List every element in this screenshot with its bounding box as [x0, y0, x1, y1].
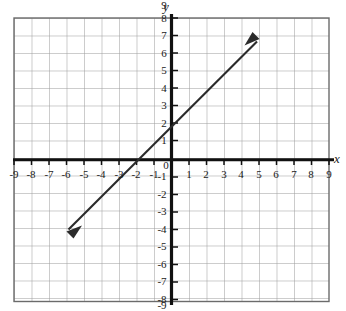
- y-tick-label-6: 6: [158, 48, 170, 59]
- x-tick-label-6: 6: [270, 169, 282, 180]
- x-tick-label-1: 1: [183, 169, 195, 180]
- y-tick-label--2: -2: [154, 189, 170, 200]
- y-tick-label--5: -5: [154, 241, 170, 252]
- y-tick-label--6: -6: [154, 259, 170, 270]
- x-tick-label-3: 3: [218, 169, 230, 180]
- x-tick-label-4: 4: [235, 169, 247, 180]
- x-tick-label-8: 8: [305, 169, 317, 180]
- y-tick-label-3: 3: [158, 100, 170, 111]
- x-tick-label--5: -5: [77, 169, 91, 180]
- x-tick-label-9: 9: [323, 169, 335, 180]
- x-tick-label--9: -9: [7, 169, 21, 180]
- x-tick-label--3: -3: [112, 169, 126, 180]
- y-tick-label-4: 4: [158, 83, 170, 94]
- y-tick-label--3: -3: [154, 206, 170, 217]
- y-tick-label-7: 7: [158, 30, 170, 41]
- x-tick-label--2: -2: [129, 169, 143, 180]
- y-tick-label-1: 1: [158, 135, 170, 146]
- y-tick-label-2: 2: [158, 118, 170, 129]
- x-tick-label--6: -6: [59, 169, 73, 180]
- x-tick-label--8: -8: [24, 169, 38, 180]
- x-tick-label-2: 2: [200, 169, 212, 180]
- x-tick-label--7: -7: [42, 169, 56, 180]
- x-tick-label-7: 7: [288, 169, 300, 180]
- x-tick-label--4: -4: [94, 169, 108, 180]
- x-axis-label: x: [334, 152, 340, 165]
- y-tick-label--7: -7: [154, 276, 170, 287]
- y-tick-label--1: -1: [154, 171, 170, 182]
- y-axis-label: y: [163, 0, 169, 13]
- y-tick-label--4: -4: [154, 224, 170, 235]
- y-tick-label-8: 8: [158, 13, 170, 24]
- x-tick-label-5: 5: [253, 169, 265, 180]
- y-tick-label--9: -9: [154, 300, 170, 311]
- y-tick-label-5: 5: [158, 65, 170, 76]
